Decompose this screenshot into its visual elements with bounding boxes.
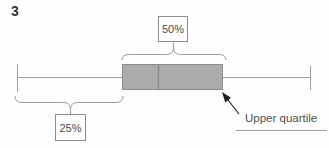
arrow-head [222, 92, 231, 103]
boxplot-diagram: 3 50% 25% [0, 0, 329, 148]
label-box-50-percent: 50% [158, 16, 188, 42]
bottom-brace [15, 96, 123, 110]
boxplot [17, 64, 311, 92]
iqr-box [123, 65, 223, 90]
top-brace [122, 48, 226, 61]
upper-quartile-label[interactable]: Upper quartile [245, 112, 317, 124]
label-50-percent: 50% [162, 23, 184, 35]
arrow-tail [228, 100, 239, 114]
upper-quartile-arrow-icon [222, 92, 239, 114]
label-box-25-percent: 25% [55, 114, 86, 141]
label-25-percent: 25% [59, 122, 81, 134]
